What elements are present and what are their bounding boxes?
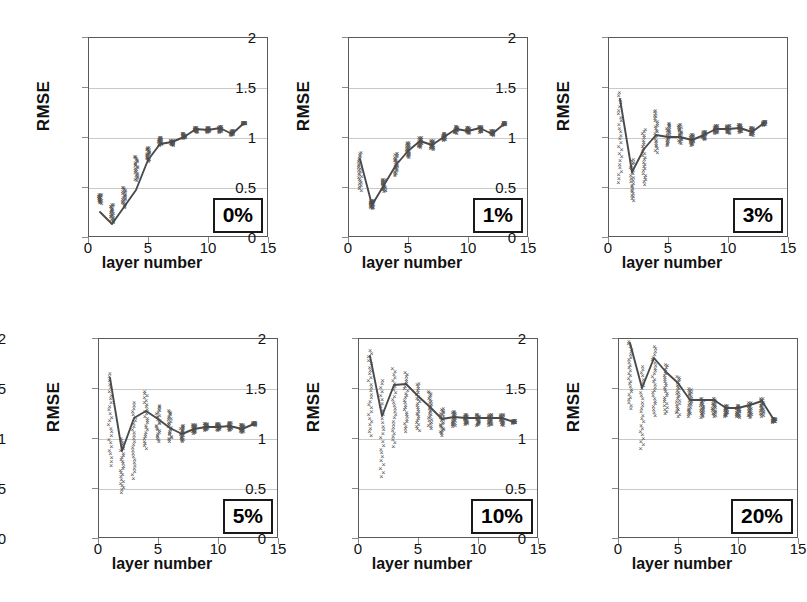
y-tick-label: 2 xyxy=(216,30,256,45)
y-tick-label: 0 xyxy=(226,531,266,546)
scatter-marker: × xyxy=(121,183,125,192)
data-series: ××××××××××××××××××××××××××××××××××××××××… xyxy=(270,301,539,602)
scatter-marker: × xyxy=(143,387,147,396)
y-tick-label: 1.5 xyxy=(0,381,6,396)
scatter-marker: × xyxy=(699,394,703,403)
panel-20pct: RMSElayer number00.511.52051015×××××××××… xyxy=(530,301,799,602)
y-tick-label: 0.5 xyxy=(0,481,6,496)
y-tick-label: 2 xyxy=(476,30,516,45)
scatter-marker: × xyxy=(359,148,363,157)
figure-rmse-vs-layer-number: RMSElayer number00.511.52051015×××××××××… xyxy=(0,0,807,602)
panel-inner: RMSElayer number00.511.52051015×××××××××… xyxy=(0,0,269,301)
scatter-marker: × xyxy=(653,106,657,115)
y-tick-label: 0.5 xyxy=(226,481,266,496)
y-tick-label: 0.5 xyxy=(216,180,256,195)
scatter-marker: × xyxy=(631,155,635,164)
y-tick-label: 1.5 xyxy=(216,80,256,95)
y-tick-label: 2 xyxy=(0,331,6,346)
scatter-marker: × xyxy=(191,420,195,429)
y-tick-label: 2 xyxy=(226,331,266,346)
scatter-marker: × xyxy=(617,88,621,97)
scatter-marker: × xyxy=(132,398,136,407)
noise-level-badge: 5% xyxy=(223,499,273,534)
y-tick-label: 0 xyxy=(0,531,6,546)
data-series: ××××××××××××××××××××××××××××××××××××××××… xyxy=(260,0,529,301)
scatter-marker: × xyxy=(108,369,112,378)
scatter-marker: × xyxy=(157,401,161,410)
y-tick-label: 1.5 xyxy=(486,381,526,396)
scatter-marker: × xyxy=(510,416,514,425)
scatter-marker: × xyxy=(243,118,247,127)
noise-level-badge: 3% xyxy=(733,198,783,233)
y-tick-label: 1 xyxy=(226,431,266,446)
scatter-marker: × xyxy=(368,346,372,355)
scatter-marker: × xyxy=(426,387,430,396)
panel-inner: RMSElayer number00.511.52051015×××××××××… xyxy=(530,301,799,602)
scatter-marker: × xyxy=(675,372,679,381)
scatter-marker: × xyxy=(652,342,656,351)
panel-3pct: RMSElayer number00.511.52051015×××××××××… xyxy=(520,0,789,301)
y-tick-label: 1.5 xyxy=(226,381,266,396)
scatter-marker: × xyxy=(98,190,102,199)
panel-1pct: RMSElayer number00.511.52051015×××××××××… xyxy=(260,0,529,301)
y-tick-label: 0.5 xyxy=(476,180,516,195)
scatter-marker: × xyxy=(390,364,394,373)
noise-level-badge: 1% xyxy=(473,198,523,233)
scatter-marker: × xyxy=(441,404,445,413)
y-tick-label: 1.5 xyxy=(476,80,516,95)
scatter-marker: × xyxy=(380,175,384,184)
scatter-marker: × xyxy=(679,120,683,129)
y-tick-label: 0 xyxy=(216,230,256,245)
noise-level-badge: 10% xyxy=(471,499,533,534)
scatter-marker: × xyxy=(640,362,644,371)
y-tick-label: 1 xyxy=(476,130,516,145)
scatter-marker: × xyxy=(405,138,409,147)
scatter-marker: × xyxy=(690,130,694,139)
panel-inner: RMSElayer number00.511.52051015×××××××××… xyxy=(520,0,789,301)
scatter-marker: × xyxy=(133,152,137,161)
scatter-marker: × xyxy=(403,368,407,377)
scatter-marker: × xyxy=(395,149,399,158)
scatter-marker: × xyxy=(663,360,667,369)
y-tick-label: 2 xyxy=(486,331,526,346)
data-series: ××××××××××××××××××××××××××××××××××××××××… xyxy=(0,0,269,301)
noise-level-badge: 20% xyxy=(731,499,793,534)
scatter-marker: × xyxy=(158,133,162,142)
scatter-marker: × xyxy=(667,119,671,128)
data-series: ××××××××××××××××××××××××××××××××××××××××… xyxy=(10,301,279,602)
scatter-marker: × xyxy=(452,407,456,416)
scatter-marker: × xyxy=(111,200,115,209)
y-tick-label: 0.5 xyxy=(486,481,526,496)
y-tick-label: 1 xyxy=(486,431,526,446)
y-tick-label: 0 xyxy=(476,230,516,245)
scatter-marker: × xyxy=(381,376,385,385)
scatter-marker: × xyxy=(147,143,151,152)
scatter-marker: × xyxy=(687,384,691,393)
y-tick-label: 0 xyxy=(486,531,526,546)
data-series: ××××××××××××××××××××××××××××××××××××××××… xyxy=(520,0,789,301)
panel-inner: RMSElayer number00.511.52051015×××××××××… xyxy=(270,301,539,602)
scatter-marker: × xyxy=(749,123,753,132)
panel-inner: RMSElayer number00.511.52051015×××××××××… xyxy=(260,0,529,301)
y-tick-label: 1 xyxy=(216,130,256,145)
panel-10pct: RMSElayer number00.511.52051015×××××××××… xyxy=(270,301,539,602)
data-series: ××××××××××××××××××××××××××××××××××××××××… xyxy=(530,301,799,602)
noise-level-badge: 0% xyxy=(213,198,263,233)
scatter-marker: × xyxy=(417,379,421,388)
panel-inner: RMSElayer number00.511.52051015×××××××××… xyxy=(10,301,279,602)
scatter-marker: × xyxy=(167,406,171,415)
scatter-marker: × xyxy=(643,125,647,134)
scatter-marker: × xyxy=(181,421,185,430)
y-tick-label: 1 xyxy=(0,431,6,446)
panel-5pct: RMSElayer number00.511.52051015×××××××××… xyxy=(10,301,279,602)
scatter-marker: × xyxy=(239,420,243,429)
panel-0pct: RMSElayer number00.511.52051015×××××××××… xyxy=(0,0,269,301)
